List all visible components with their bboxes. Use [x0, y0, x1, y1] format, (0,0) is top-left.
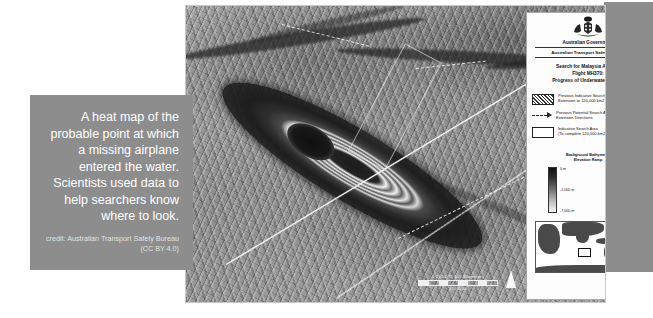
legend-title-line1: Search for Malaysia Airlines	[533, 64, 606, 71]
legend-entry-line2: Extension Directions	[556, 115, 606, 120]
north-arrow-icon	[506, 270, 518, 292]
scale-bar-ticks	[418, 280, 498, 286]
legend-date-label: Date: 1/12/2015	[527, 273, 606, 282]
bathymetry-title-line2: Elevation Ramp	[532, 158, 606, 163]
legend-title-line3: Progress of Underwater Search	[533, 78, 606, 85]
bathymetry-legend: Background Bathymetry Elevation Ramp 0 m…	[527, 143, 606, 214]
legend-entry: Previous Potential Search Area Extension…	[532, 110, 606, 121]
caption-box: A heat map of the probable point at whic…	[30, 95, 193, 270]
legend-entry-text: Indicative Search Area (To complete 120,…	[558, 126, 606, 137]
ramp-label: -2,000 m	[560, 188, 574, 192]
open-rectangle-icon	[532, 127, 554, 138]
legend-entry-text: Previous Indicative Search Area Extensio…	[558, 93, 606, 104]
legend-government-label: Australian Government	[535, 39, 606, 48]
caption-text: A heat map of the probable point at whic…	[44, 109, 179, 225]
australian-coat-of-arms-icon	[527, 13, 606, 39]
bathymetry-ramp-body: 0 m -2,000 m -7,000 m	[532, 167, 606, 213]
hatched-polygon-icon	[532, 94, 554, 105]
dashed-arrow-icon	[532, 111, 552, 120]
legend-entry-line2: Extension to 120,000 km2	[558, 98, 606, 103]
mh370-search-map: 0 25 50 75 100 Kilometers 1:1,500,000	[185, 5, 606, 303]
ramp-label: 0 m	[560, 167, 574, 171]
scale-bar-label: 0 25 50 75 100 Kilometers	[418, 274, 498, 279]
map-legend-panel: Australian Government Australian Transpo…	[526, 12, 606, 300]
legend-entry-list: Previous Indicative Search Area Extensio…	[527, 91, 606, 138]
legend-title-line2: Flight MH370:	[533, 71, 606, 78]
caption-credit: credit: Australian Transport Safety Bure…	[44, 234, 179, 255]
decorative-gray-slab-right	[604, 2, 653, 272]
legend-entry: Previous Indicative Search Area Extensio…	[532, 93, 606, 105]
legend-bureau-label: Australian Transport Safety Bureau	[535, 48, 606, 58]
inset-search-area-box	[578, 248, 591, 257]
indian-ocean-locator-map	[535, 221, 606, 273]
legend-title: Search for Malaysia Airlines Flight MH37…	[527, 58, 606, 91]
ramp-label: -7,000 m	[560, 209, 574, 213]
inset-landmass-africa	[538, 224, 560, 254]
elevation-ramp-labels: 0 m -2,000 m -7,000 m	[560, 167, 574, 213]
legend-entry-line2: (To complete 120,000 km2)	[558, 131, 606, 136]
inset-landmass-antarctica	[536, 265, 606, 273]
legend-entry-text: Previous Potential Search Area Extension…	[556, 110, 606, 121]
elevation-color-ramp	[548, 167, 557, 213]
scale-ratio-label: 1:1,500,000	[418, 287, 498, 291]
legend-entry: Indicative Search Area (To complete 120,…	[532, 126, 606, 138]
bathymetry-title: Background Bathymetry Elevation Ramp	[532, 153, 606, 164]
map-scale-bar: 0 25 50 75 100 Kilometers 1:1,500,000	[418, 274, 498, 291]
figure-canvas: 0 25 50 75 100 Kilometers 1:1,500,000	[0, 0, 653, 318]
